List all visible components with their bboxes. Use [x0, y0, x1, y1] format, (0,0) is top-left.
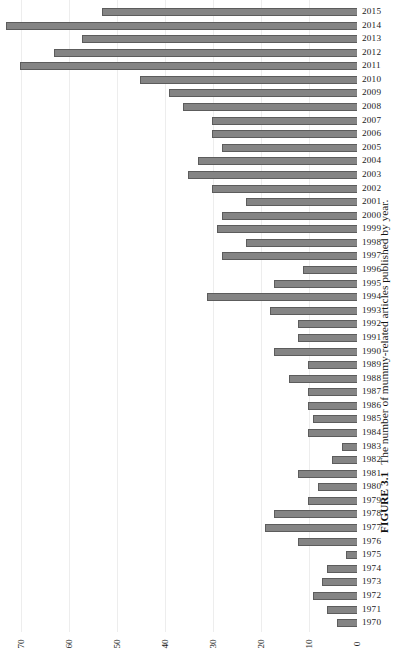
tick-label-40: 40	[158, 631, 172, 657]
bar-row	[0, 32, 358, 46]
bar-row	[0, 575, 358, 589]
bar-1985	[313, 415, 357, 423]
bar-1999	[217, 225, 357, 233]
bar-1990	[274, 348, 357, 356]
category-label-2003: 2003	[362, 168, 396, 182]
bar-1982	[332, 456, 357, 464]
category-label-2011: 2011	[362, 59, 396, 73]
bar-row	[0, 494, 358, 508]
bar-row	[0, 480, 358, 494]
bar-row	[0, 19, 358, 33]
bar-row	[0, 426, 358, 440]
bar-row	[0, 467, 358, 481]
bar-row	[0, 616, 358, 630]
tick-label-30: 30	[206, 631, 220, 657]
bar-row	[0, 86, 358, 100]
bar-row	[0, 5, 358, 19]
category-label-1971: 1971	[362, 603, 396, 617]
bar-1986	[308, 402, 357, 410]
bar-1996	[303, 266, 357, 274]
bar-row	[0, 345, 358, 359]
bar-1988	[289, 375, 357, 383]
category-label-1974: 1974	[362, 562, 396, 576]
bar-1972	[313, 592, 357, 600]
bar-row	[0, 59, 358, 73]
bar-1984	[308, 429, 357, 437]
bar-1989	[308, 361, 357, 369]
bar-row	[0, 127, 358, 141]
bar-2013	[82, 35, 357, 43]
tick-label-20: 20	[254, 631, 268, 657]
bar-2014	[6, 22, 357, 30]
tick-label-60: 60	[62, 631, 76, 657]
figure-container: 2015201420132012201120102009200820072006…	[0, 0, 417, 671]
bar-row	[0, 521, 358, 535]
category-label-1973: 1973	[362, 575, 396, 589]
category-label-2005: 2005	[362, 141, 396, 155]
bar-chart-plot-area	[0, 0, 358, 632]
bar-row	[0, 290, 358, 304]
bar-row	[0, 114, 358, 128]
bar-2009	[169, 89, 357, 97]
bar-1976	[298, 538, 357, 546]
category-label-2013: 2013	[362, 32, 396, 46]
bar-2002	[212, 185, 357, 193]
bar-2011	[20, 62, 357, 70]
category-label-2004: 2004	[362, 154, 396, 168]
bar-1993	[270, 307, 357, 315]
bar-row	[0, 317, 358, 331]
bar-row	[0, 412, 358, 426]
bar-row	[0, 249, 358, 263]
bar-row	[0, 168, 358, 182]
category-label-2002: 2002	[362, 182, 396, 196]
category-label-2012: 2012	[362, 46, 396, 60]
bar-row	[0, 358, 358, 372]
bar-row	[0, 548, 358, 562]
figure-caption: FIGURE 3.1The number of mummy-related ar…	[374, 253, 394, 533]
category-label-2014: 2014	[362, 19, 396, 33]
bar-row	[0, 399, 358, 413]
bar-row	[0, 535, 358, 549]
bar-2003	[188, 171, 357, 179]
bar-row	[0, 73, 358, 87]
bar-2008	[183, 103, 357, 111]
category-label-1972: 1972	[362, 589, 396, 603]
category-label-2009: 2009	[362, 86, 396, 100]
category-label-2015: 2015	[362, 5, 396, 19]
bar-row	[0, 182, 358, 196]
tick-label-0: 0	[350, 631, 364, 657]
bar-row	[0, 331, 358, 345]
bar-row	[0, 141, 358, 155]
bar-row	[0, 236, 358, 250]
bar-2015	[102, 8, 357, 16]
bar-1995	[274, 280, 357, 288]
bar-row	[0, 46, 358, 60]
bar-1981	[298, 470, 357, 478]
bar-1974	[327, 565, 357, 573]
tick-label-50: 50	[110, 631, 124, 657]
bar-1998	[246, 239, 357, 247]
bar-1977	[265, 524, 357, 532]
figure-caption-number: FIGURE 3.1	[378, 472, 390, 533]
bar-row	[0, 277, 358, 291]
category-label-1976: 1976	[362, 535, 396, 549]
bar-1978	[274, 510, 357, 518]
bar-row	[0, 263, 358, 277]
tick-label-70: 70	[14, 631, 28, 657]
bar-1992	[298, 320, 357, 328]
bar-row	[0, 304, 358, 318]
bar-1979	[308, 497, 357, 505]
bar-1980	[318, 483, 357, 491]
bar-1975	[346, 551, 357, 559]
bar-row	[0, 589, 358, 603]
bar-row	[0, 195, 358, 209]
bar-2012	[54, 49, 357, 57]
bar-row	[0, 453, 358, 467]
bar-row	[0, 507, 358, 521]
bar-row	[0, 100, 358, 114]
bar-2005	[222, 144, 357, 152]
bar-1997	[222, 252, 357, 260]
bar-2000	[222, 212, 357, 220]
bar-row	[0, 440, 358, 454]
bar-2007	[212, 117, 357, 125]
